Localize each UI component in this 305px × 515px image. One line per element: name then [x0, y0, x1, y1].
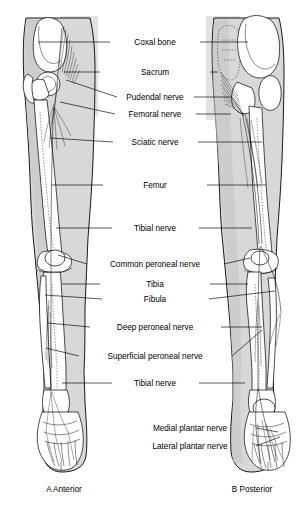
- label-sciatic_nerve: Sciatic nerve: [130, 138, 181, 147]
- patella-a: [45, 250, 65, 266]
- panel-a-anterior: [23, 16, 98, 472]
- label-medial_plantar_nerve: Medial plantar nerve: [151, 424, 229, 433]
- label-superficial_peroneal_nerve: Superficial peroneal nerve: [105, 352, 204, 361]
- panel-caption-b: B Posterior: [232, 485, 273, 494]
- label-pudendal_nerve: Pudendal nerve: [124, 93, 185, 102]
- label-common_peroneal_nerve: Common peroneal nerve: [108, 260, 202, 269]
- coxal-bone-a: [33, 18, 67, 73]
- coxal-bone-b: [238, 16, 280, 79]
- ankle-a: [43, 390, 70, 415]
- label-femur: Femur: [141, 181, 169, 190]
- label-tibia: Tibia: [144, 280, 165, 289]
- label-coxal_bone: Coxal bone: [132, 38, 177, 47]
- label-lateral_plantar_nerve: Lateral plantar nerve: [150, 442, 229, 451]
- label-tibial_nerve_upper: Tibial nerve: [132, 224, 178, 233]
- anatomy-illustration: [0, 0, 305, 515]
- label-deep_peroneal_nerve: Deep peroneal nerve: [115, 323, 195, 332]
- label-fibula: Fibula: [142, 295, 168, 304]
- anatomy-figure: Coxal boneSacrumPudendal nerveFemoral ne…: [0, 0, 305, 515]
- label-tibial_nerve_lower: Tibial nerve: [132, 379, 178, 388]
- label-femoral_nerve: Femoral nerve: [127, 110, 184, 119]
- panel-caption-a: A Anterior: [46, 485, 82, 494]
- label-sacrum: Sacrum: [139, 68, 171, 77]
- superficial-peroneal-nerve-b: [276, 312, 281, 346]
- panel-b-posterior: [206, 16, 290, 473]
- greater-trochanter-b: [259, 76, 281, 111]
